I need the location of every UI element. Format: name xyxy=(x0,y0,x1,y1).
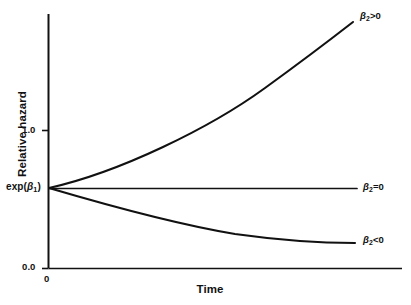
curve-label-neg-relation: <0 xyxy=(373,234,384,245)
curve-label-pos-relation: >0 xyxy=(370,10,381,21)
curve-label-beta2-positive: β2>0 xyxy=(360,10,381,22)
y-tick-label-1.0: 1.0 xyxy=(22,124,36,135)
curve-label-beta2-zero: β2=0 xyxy=(363,181,384,193)
curve-label-beta2-negative: β2<0 xyxy=(363,234,384,246)
intercept-suffix: ) xyxy=(37,181,40,192)
x-origin-label: 0 xyxy=(44,273,49,284)
curve-label-zero-relation: =0 xyxy=(373,181,384,192)
chart-plot-area xyxy=(0,0,411,305)
y-tick-label-0.0: 0.0 xyxy=(22,261,36,272)
intercept-prefix: exp( xyxy=(6,181,27,192)
intercept-label: exp(β1) xyxy=(6,181,41,194)
relative-hazard-chart: Relative hazard Time 1.0 0.0 0 exp(β1) β… xyxy=(0,0,411,305)
x-axis-title: Time xyxy=(155,283,265,295)
curve-beta2-negative xyxy=(49,188,355,243)
curve-beta2-positive xyxy=(49,22,353,188)
